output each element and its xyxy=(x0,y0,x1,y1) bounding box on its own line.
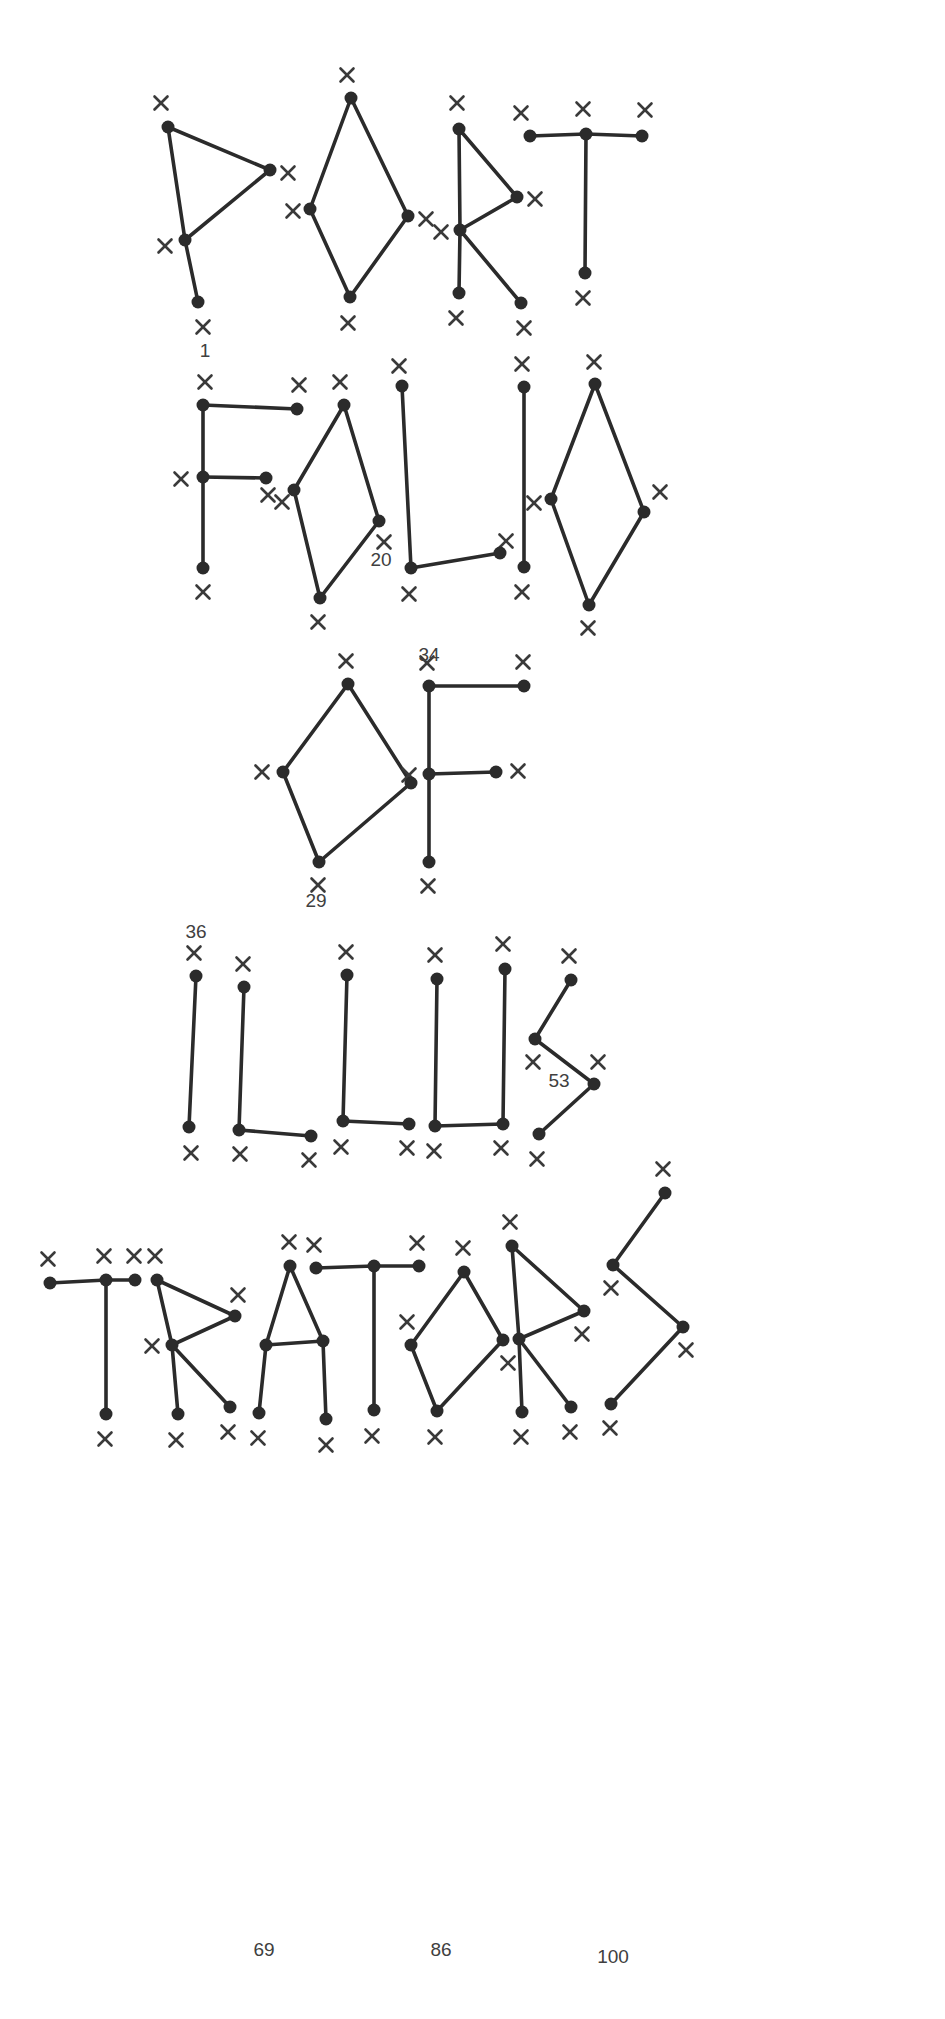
node-dot xyxy=(264,164,277,177)
node-dot xyxy=(313,856,326,869)
node-dot xyxy=(638,506,651,519)
node-dot xyxy=(497,1118,510,1131)
node-dot xyxy=(44,1277,57,1290)
node-dot xyxy=(589,378,602,391)
node-dot xyxy=(197,562,210,575)
node-dot xyxy=(151,1274,164,1287)
canvas-background xyxy=(0,0,945,2019)
index-label: 53 xyxy=(548,1070,569,1091)
node-dot xyxy=(396,380,409,393)
node-dot xyxy=(229,1310,242,1323)
node-dot xyxy=(403,1118,416,1131)
node-dot xyxy=(429,1120,442,1133)
node-dot xyxy=(238,981,251,994)
node-dot xyxy=(511,191,524,204)
node-dot xyxy=(533,1128,546,1141)
node-dot xyxy=(341,969,354,982)
glyph-edge xyxy=(435,979,437,1126)
index-label: 29 xyxy=(305,890,326,911)
node-dot xyxy=(183,1121,196,1134)
node-dot xyxy=(342,678,355,691)
node-dot xyxy=(565,1401,578,1414)
node-dot xyxy=(494,547,507,560)
index-label: 86 xyxy=(430,1939,451,1960)
node-dot xyxy=(565,974,578,987)
node-dot xyxy=(431,973,444,986)
node-dot xyxy=(497,1334,510,1347)
glyph-edge xyxy=(435,1124,503,1126)
node-dot xyxy=(405,562,418,575)
node-dot xyxy=(518,561,531,574)
node-dot xyxy=(677,1321,690,1334)
node-dot xyxy=(284,1260,297,1273)
node-dot xyxy=(320,1413,333,1426)
node-dot xyxy=(192,296,205,309)
node-dot xyxy=(166,1339,179,1352)
node-dot xyxy=(515,297,528,310)
node-dot xyxy=(288,484,301,497)
node-dot xyxy=(580,128,593,141)
node-dot xyxy=(588,1078,601,1091)
node-dot xyxy=(190,970,203,983)
node-dot xyxy=(224,1401,237,1414)
index-label: 69 xyxy=(253,1939,274,1960)
index-label: 100 xyxy=(597,1946,629,1967)
node-dot xyxy=(583,599,596,612)
node-dot xyxy=(338,399,351,412)
node-dot xyxy=(317,1335,330,1348)
node-dot xyxy=(659,1187,672,1200)
node-dot xyxy=(402,210,415,223)
glyph-edge xyxy=(459,129,460,230)
node-dot xyxy=(337,1115,350,1128)
glyph-edge xyxy=(530,134,586,136)
glyph-edge xyxy=(459,230,460,293)
node-dot xyxy=(260,472,273,485)
node-dot xyxy=(368,1260,381,1273)
node-dot xyxy=(516,1406,529,1419)
node-dot xyxy=(100,1408,113,1421)
node-dot xyxy=(431,1405,444,1418)
node-dot xyxy=(423,680,436,693)
glyph-edge xyxy=(203,477,266,478)
index-label: 1 xyxy=(200,340,211,361)
index-label: 36 xyxy=(185,921,206,942)
node-dot xyxy=(490,766,503,779)
node-dot xyxy=(373,515,386,528)
node-dot xyxy=(513,1333,526,1346)
glyph-edge xyxy=(429,772,496,774)
node-dot xyxy=(277,766,290,779)
node-dot xyxy=(305,1130,318,1143)
node-dot xyxy=(499,963,512,976)
node-dot xyxy=(405,1339,418,1352)
node-dot xyxy=(423,856,436,869)
node-dot xyxy=(179,234,192,247)
node-dot xyxy=(162,121,175,134)
glyph-edge xyxy=(585,134,586,273)
node-dot xyxy=(405,777,418,790)
node-dot xyxy=(506,1240,519,1253)
node-dot xyxy=(529,1033,542,1046)
node-dot xyxy=(518,381,531,394)
node-dot xyxy=(100,1274,113,1287)
glyph-edge xyxy=(316,1266,374,1268)
node-dot xyxy=(344,291,357,304)
glyph-edge xyxy=(586,134,642,136)
node-dot xyxy=(578,1305,591,1318)
node-dot xyxy=(197,399,210,412)
node-dot xyxy=(260,1339,273,1352)
index-label: 20 xyxy=(370,549,391,570)
node-dot xyxy=(453,123,466,136)
glyph-edge xyxy=(503,969,505,1124)
node-dot xyxy=(636,130,649,143)
node-dot xyxy=(518,680,531,693)
node-dot xyxy=(607,1259,620,1272)
node-dot xyxy=(423,768,436,781)
node-dot xyxy=(291,403,304,416)
node-dot xyxy=(129,1274,142,1287)
node-dot xyxy=(454,224,467,237)
node-dot xyxy=(524,130,537,143)
node-dot xyxy=(413,1260,426,1273)
node-dot xyxy=(345,92,358,105)
node-dot xyxy=(310,1262,323,1275)
node-dot xyxy=(545,493,558,506)
